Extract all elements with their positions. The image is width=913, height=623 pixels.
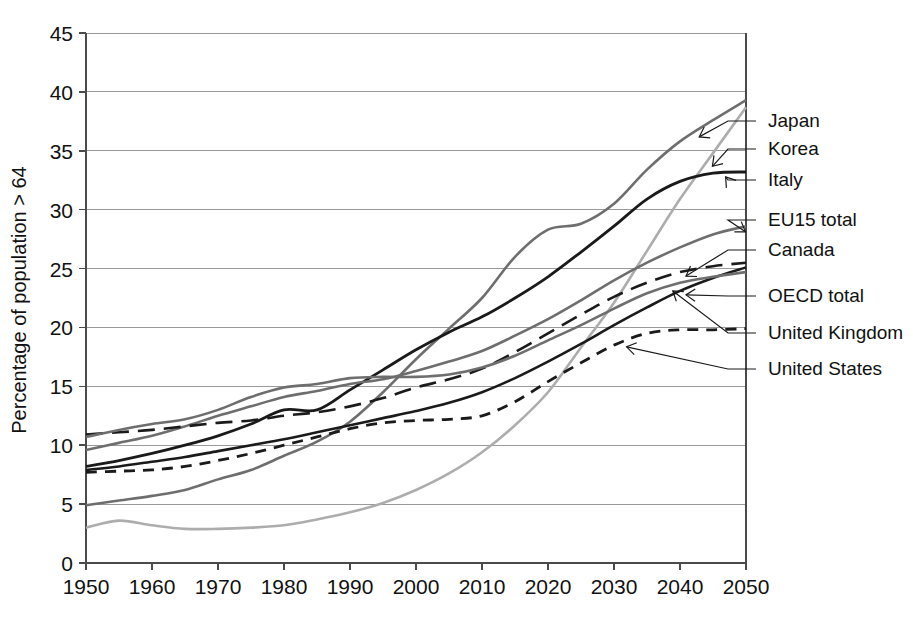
- x-tick-label: 1980: [261, 575, 308, 598]
- x-tick-label: 2040: [657, 575, 704, 598]
- x-tick-label: 1960: [129, 575, 176, 598]
- series-label-oecd-total: OECD total: [768, 285, 864, 306]
- y-axis-tick-labels: 051015202530354045: [50, 22, 73, 575]
- x-tick-label: 2050: [723, 575, 770, 598]
- y-tick-label: 5: [61, 493, 73, 516]
- chart-container: 051015202530354045 195019601970198019902…: [0, 0, 913, 623]
- series-line-oecd-total: [86, 267, 746, 470]
- x-tick-label: 1950: [63, 575, 110, 598]
- series-line-italy: [86, 172, 746, 466]
- series-label-japan: Japan: [768, 110, 820, 131]
- y-tick-label: 25: [50, 258, 73, 281]
- y-tick-label: 30: [50, 199, 73, 222]
- x-tick-label: 2000: [393, 575, 440, 598]
- gridlines: [86, 33, 746, 563]
- annotation-leader-line: [673, 291, 756, 333]
- y-axis-label: Percentage of population > 64: [8, 166, 30, 433]
- y-tick-label: 20: [50, 316, 73, 339]
- series-lines: [86, 100, 746, 529]
- x-tick-label: 2020: [525, 575, 572, 598]
- x-axis-tick-labels: 1950196019701980199020002010202020302040…: [63, 575, 770, 598]
- annotation-leader-line: [712, 149, 756, 166]
- y-tick-label: 35: [50, 140, 73, 163]
- x-tick-label: 2030: [591, 575, 638, 598]
- series-label-united-kingdom: United Kingdom: [768, 322, 903, 343]
- series-label-eu15-total: EU15 total: [768, 209, 857, 230]
- axes: [79, 33, 746, 570]
- x-tick-label: 1990: [327, 575, 374, 598]
- y-tick-label: 0: [61, 552, 73, 575]
- population-aging-line-chart: 051015202530354045 195019601970198019902…: [0, 0, 913, 623]
- series-label-canada: Canada: [768, 239, 835, 260]
- y-tick-label: 45: [50, 22, 73, 45]
- y-tick-label: 10: [50, 434, 73, 457]
- y-tick-label: 15: [50, 375, 73, 398]
- series-label-italy: Italy: [768, 169, 803, 190]
- series-label-united-states: United States: [768, 358, 882, 379]
- series-line-eu15-total: [86, 226, 746, 450]
- x-tick-label: 2010: [459, 575, 506, 598]
- x-tick-label: 1970: [195, 575, 242, 598]
- y-tick-label: 40: [50, 81, 73, 104]
- annotation-leader-line: [627, 347, 756, 369]
- series-label-korea: Korea: [768, 138, 819, 159]
